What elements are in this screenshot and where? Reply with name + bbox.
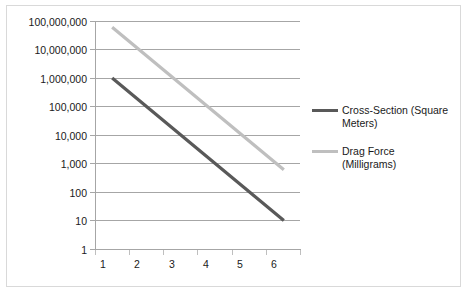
x-axis-tick (163, 250, 164, 255)
legend-color-swatch-icon (312, 109, 338, 112)
y-axis-label: 1 (81, 245, 87, 256)
x-axis-line (95, 249, 301, 250)
x-axis-label: 5 (230, 259, 250, 270)
legend-entry-cross-section[interactable]: Cross-Section (Square Meters) (312, 104, 452, 131)
gridline (95, 106, 300, 107)
y-axis-label: 10,000 (55, 131, 87, 142)
x-axis-tick (266, 250, 267, 255)
y-axis-label: 10 (75, 216, 87, 227)
y-axis-label: 1,000 (61, 159, 87, 170)
chart-container: 100,000,000 10,000,000 1,000,000 100,000… (0, 0, 467, 293)
gridline (95, 220, 300, 221)
legend-entry-label: Drag Force (Milligrams) (342, 145, 450, 172)
legend: Cross-Section (Square Meters) Drag Force… (312, 104, 452, 186)
gridline (95, 49, 300, 50)
y-axis-label: 10,000,000 (34, 45, 87, 56)
gridline (95, 192, 300, 193)
y-axis-line (95, 21, 96, 250)
gridline (95, 163, 300, 164)
legend-entry-label: Cross-Section (Square Meters) (342, 104, 450, 131)
x-axis-label: 6 (264, 259, 284, 270)
x-axis-label: 1 (93, 259, 113, 270)
x-axis-tick (129, 250, 130, 255)
gridline (95, 135, 300, 136)
y-axis-label: 100,000,000 (29, 17, 87, 28)
x-axis-tick (300, 250, 301, 255)
gridline (95, 78, 300, 79)
plot-area (95, 21, 300, 249)
x-axis-label: 4 (196, 259, 216, 270)
y-axis-label: 100,000 (49, 102, 87, 113)
gridline (95, 21, 300, 22)
y-axis-labels: 100,000,000 10,000,000 1,000,000 100,000… (0, 0, 87, 293)
legend-color-swatch-icon (312, 150, 338, 153)
x-axis-label: 2 (127, 259, 147, 270)
x-axis-tick (197, 250, 198, 255)
x-axis-tick (95, 250, 96, 255)
x-axis-tick (232, 250, 233, 255)
y-axis-label: 1,000,000 (40, 74, 87, 85)
y-axis-label: 100 (69, 188, 87, 199)
legend-entry-drag-force[interactable]: Drag Force (Milligrams) (312, 145, 452, 172)
x-axis-label: 3 (162, 259, 182, 270)
